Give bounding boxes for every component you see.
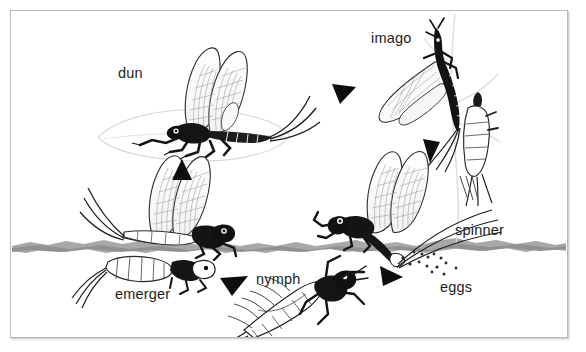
arrow-down-left-icon — [219, 275, 249, 297]
imago-shuck — [464, 92, 498, 206]
dun-insect — [132, 48, 320, 159]
label-emerger: emerger — [115, 287, 170, 302]
arrow-down-right-icon — [331, 82, 357, 106]
arrow-right-icon — [378, 264, 404, 288]
water-surface — [12, 238, 566, 253]
label-nymph: nymph — [256, 272, 301, 287]
label-imago: imago — [371, 31, 412, 46]
diagram-stage: dun imago emerger nymph spinner eggs — [0, 0, 586, 352]
arrow-up-icon — [170, 158, 194, 182]
dun-wings — [185, 48, 247, 135]
label-spinner: spinner — [455, 223, 504, 238]
label-eggs: eggs — [440, 280, 472, 295]
arrow-down-icon — [420, 138, 442, 164]
diagram-artwork — [0, 0, 586, 352]
label-dun: dun — [118, 66, 143, 81]
